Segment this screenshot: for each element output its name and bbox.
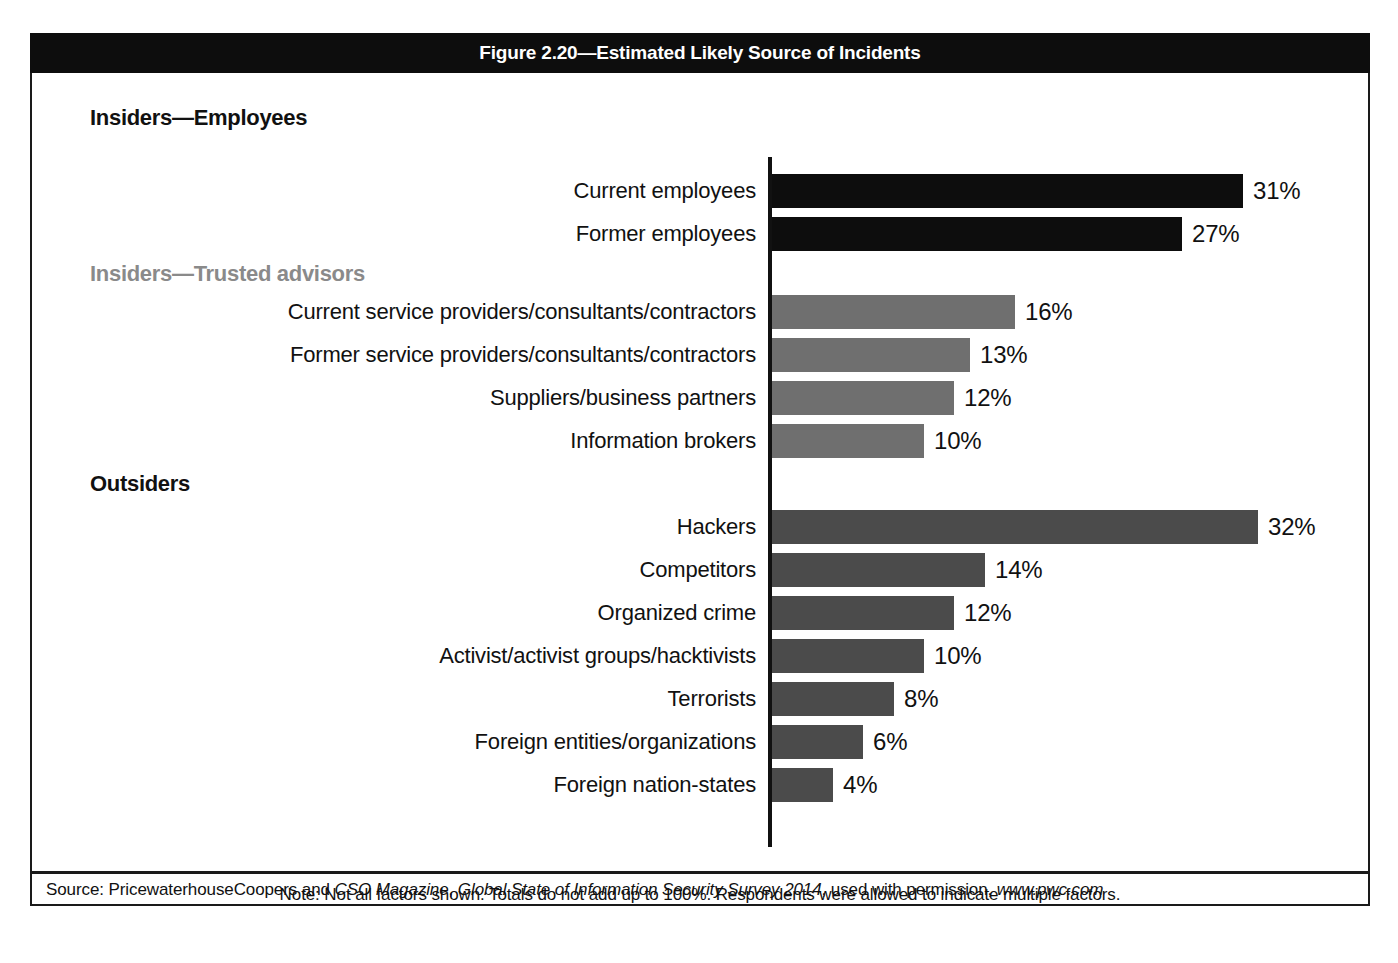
figure-panel: Figure 2.20—Estimated Likely Source of I… <box>30 33 1370 906</box>
bar-value-label: 31% <box>1253 173 1300 209</box>
bar-value-label: 10% <box>934 638 981 674</box>
bar-value-label: 4% <box>843 767 877 803</box>
bar-value-label: 12% <box>964 595 1011 631</box>
source-publication: CSO Magazine <box>335 880 449 899</box>
bar-category-label: Competitors <box>32 552 756 588</box>
bar-hackers <box>772 510 1258 544</box>
bar-category-label: Former employees <box>32 216 756 252</box>
bar-category-label: Organized crime <box>32 595 756 631</box>
bar-information-brokers <box>772 424 924 458</box>
source-divider <box>30 871 1370 874</box>
bar-row: Terrorists 8% <box>32 681 1368 717</box>
bar-current-service-providers <box>772 295 1015 329</box>
bar-current-employees <box>772 174 1243 208</box>
source-report-title: Global State of Information Security Sur… <box>458 880 822 899</box>
bar-category-label: Current employees <box>32 173 756 209</box>
bar-category-label: Suppliers/business partners <box>32 380 756 416</box>
bar-value-label: 10% <box>934 423 981 459</box>
group-heading-insiders-trusted-advisors: Insiders—Trusted advisors <box>90 261 365 287</box>
bar-row: Current employees 31% <box>32 173 1368 209</box>
bar-value-label: 12% <box>964 380 1011 416</box>
bar-category-label: Foreign entities/organizations <box>32 724 756 760</box>
bar-category-label: Information brokers <box>32 423 756 459</box>
bar-row: Foreign entities/organizations 6% <box>32 724 1368 760</box>
bar-row: Activist/activist groups/hacktivists 10% <box>32 638 1368 674</box>
bar-category-label: Terrorists <box>32 681 756 717</box>
figure-title: Figure 2.20—Estimated Likely Source of I… <box>479 42 920 64</box>
bar-former-service-providers <box>772 338 970 372</box>
source-prefix: Source: PricewaterhouseCoopers and <box>46 880 335 899</box>
bar-value-label: 16% <box>1025 294 1072 330</box>
bar-row: Suppliers/business partners 12% <box>32 380 1368 416</box>
bar-row: Information brokers 10% <box>32 423 1368 459</box>
bar-row: Foreign nation-states 4% <box>32 767 1368 803</box>
bar-activist-groups-hacktivists <box>772 639 924 673</box>
source-line: Source: PricewaterhouseCoopers and CSO M… <box>46 880 1346 900</box>
bar-foreign-nation-states <box>772 768 833 802</box>
bar-organized-crime <box>772 596 954 630</box>
bar-row: Current service providers/consultants/co… <box>32 294 1368 330</box>
source-separator-1: , <box>449 880 458 899</box>
bar-row: Competitors 14% <box>32 552 1368 588</box>
group-heading-insiders-employees: Insiders—Employees <box>90 105 307 131</box>
bar-value-label: 32% <box>1268 509 1315 545</box>
bar-value-label: 27% <box>1192 216 1239 252</box>
bar-value-label: 14% <box>995 552 1042 588</box>
bar-suppliers-business-partners <box>772 381 954 415</box>
bar-terrorists <box>772 682 894 716</box>
source-separator-2: , used with permission, <box>822 880 997 899</box>
bar-foreign-entities-organizations <box>772 725 863 759</box>
bar-row: Hackers 32% <box>32 509 1368 545</box>
bar-competitors <box>772 553 985 587</box>
chart-plot-area: Insiders—Employees Insiders—Trusted advi… <box>32 73 1368 853</box>
group-heading-outsiders: Outsiders <box>90 471 190 497</box>
bar-value-label: 13% <box>980 337 1027 373</box>
bar-row: Organized crime 12% <box>32 595 1368 631</box>
figure-title-bar: Figure 2.20—Estimated Likely Source of I… <box>30 33 1370 73</box>
bar-category-label: Current service providers/consultants/co… <box>32 294 756 330</box>
bar-category-label: Foreign nation-states <box>32 767 756 803</box>
bar-value-label: 8% <box>904 681 938 717</box>
bar-category-label: Activist/activist groups/hacktivists <box>32 638 756 674</box>
bar-category-label: Hackers <box>32 509 756 545</box>
source-url: www.pwc.com <box>997 880 1104 899</box>
bar-value-label: 6% <box>873 724 907 760</box>
bar-category-label: Former service providers/consultants/con… <box>32 337 756 373</box>
bar-row: Former service providers/consultants/con… <box>32 337 1368 373</box>
bar-row: Former employees 27% <box>32 216 1368 252</box>
bar-former-employees <box>772 217 1182 251</box>
